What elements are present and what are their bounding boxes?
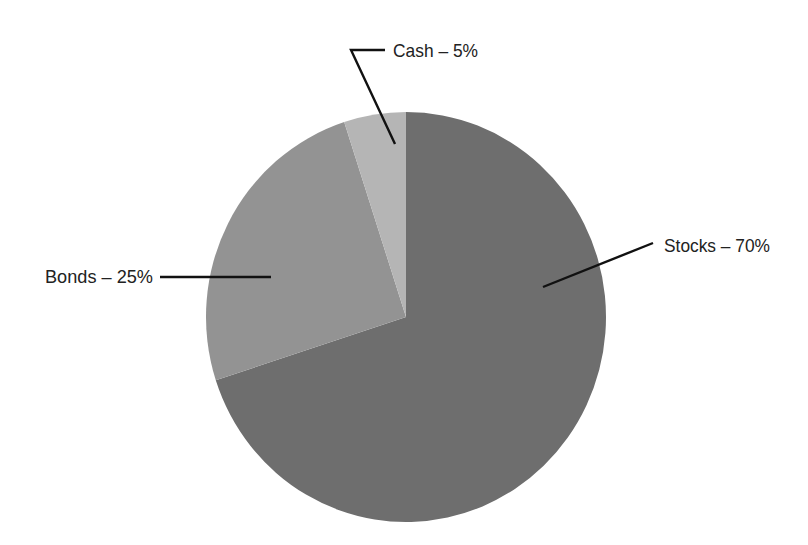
bonds-label: Bonds – 25% xyxy=(45,266,153,287)
stocks-label: Stocks – 70% xyxy=(664,235,770,256)
pie-chart: Cash – 5% Bonds – 25% Stocks – 70% xyxy=(0,0,808,545)
pie-slices xyxy=(206,112,606,522)
cash-label: Cash – 5% xyxy=(393,40,478,61)
